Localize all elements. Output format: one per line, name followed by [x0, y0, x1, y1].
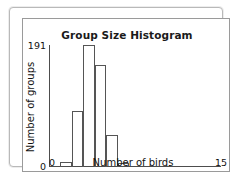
x-axis-labels: 0 Number of birds 15	[35, 154, 231, 168]
x-axis-title: Number of birds	[35, 157, 231, 168]
x-tick-label-max: 15	[215, 157, 227, 168]
histogram-bar	[95, 65, 106, 167]
y-tick-label-max: 191	[28, 41, 46, 51]
plot-frame: Group Size Histogram Number of groups 19…	[22, 18, 230, 172]
chart-title: Group Size Histogram	[23, 29, 231, 41]
figure-outer-frame: Group Size Histogram Number of groups 19…	[9, 7, 223, 167]
histogram-bars	[49, 45, 221, 167]
figure-container: Group Size Histogram Number of groups 19…	[0, 0, 234, 177]
y-axis-title-text: Number of groups	[25, 47, 37, 167]
plot-area: 191 0	[49, 45, 221, 167]
histogram-bar	[83, 45, 94, 167]
